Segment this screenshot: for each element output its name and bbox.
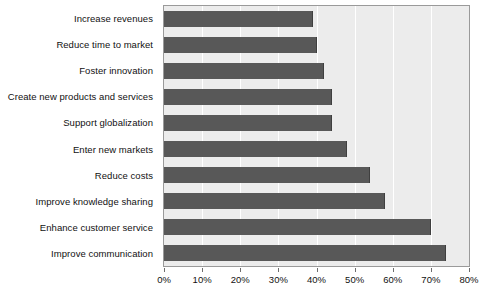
axis-tick: [278, 268, 279, 272]
axis-tick-label: 80%: [459, 274, 478, 285]
category-label-row: Enhance customer service: [0, 215, 158, 241]
bar: [164, 89, 332, 105]
category-label-row: Improve communication: [0, 241, 158, 267]
axis-tick: [240, 268, 241, 272]
bar-row: [164, 188, 469, 214]
axis-tick-label: 60%: [383, 274, 402, 285]
category-label: Create new products and services: [8, 91, 153, 102]
bar-row: [164, 84, 469, 110]
category-label: Enhance customer service: [40, 222, 153, 233]
horizontal-bar-chart: Increase revenues Reduce time to market …: [0, 0, 482, 298]
gridline: [469, 6, 470, 266]
bars-layer: [164, 6, 469, 266]
axis-tick: [164, 268, 165, 272]
bar-row: [164, 214, 469, 240]
axis-tick: [469, 268, 470, 272]
category-label-row: Foster innovation: [0, 57, 158, 83]
bar: [164, 167, 370, 183]
axis-tick-label: 0%: [157, 274, 171, 285]
bar: [164, 141, 347, 157]
category-label: Reduce time to market: [56, 39, 153, 50]
category-label-row: Reduce costs: [0, 162, 158, 188]
plot-area: [163, 5, 470, 267]
axis-tick: [355, 268, 356, 272]
category-label-row: Increase revenues: [0, 5, 158, 31]
category-label: Reduce costs: [95, 170, 153, 181]
axis-tick-label: 70%: [421, 274, 440, 285]
category-label-row: Create new products and services: [0, 84, 158, 110]
axis-tick-label: 30%: [269, 274, 288, 285]
bar: [164, 37, 317, 53]
axis-tick-label: 50%: [345, 274, 364, 285]
bar: [164, 193, 385, 209]
bar-row: [164, 6, 469, 32]
bar-row: [164, 58, 469, 84]
category-label: Improve communication: [51, 248, 153, 259]
axis-tick-label: 10%: [193, 274, 212, 285]
value-axis: 0%10%20%30%40%50%60%70%80%: [163, 268, 470, 290]
axis-tick: [393, 268, 394, 272]
axis-tick: [202, 268, 203, 272]
bar: [164, 63, 324, 79]
category-label-row: Improve knowledge sharing: [0, 188, 158, 214]
category-label-row: Reduce time to market: [0, 31, 158, 57]
bar-row: [164, 32, 469, 58]
bar-row: [164, 240, 469, 266]
category-label-row: Enter new markets: [0, 136, 158, 162]
bar-row: [164, 110, 469, 136]
category-axis: Increase revenues Reduce time to market …: [0, 5, 158, 267]
category-label: Enter new markets: [73, 144, 153, 155]
category-label: Improve knowledge sharing: [36, 196, 153, 207]
category-label: Support globalization: [63, 117, 153, 128]
bar-row: [164, 136, 469, 162]
category-label-row: Support globalization: [0, 110, 158, 136]
axis-tick-label: 20%: [231, 274, 250, 285]
bar-row: [164, 162, 469, 188]
category-label: Foster innovation: [79, 65, 153, 76]
axis-tick-label: 40%: [307, 274, 326, 285]
bar: [164, 115, 332, 131]
bar: [164, 245, 446, 261]
bar: [164, 11, 313, 27]
axis-tick: [431, 268, 432, 272]
category-label: Increase revenues: [74, 13, 153, 24]
axis-tick: [317, 268, 318, 272]
bar: [164, 219, 431, 235]
